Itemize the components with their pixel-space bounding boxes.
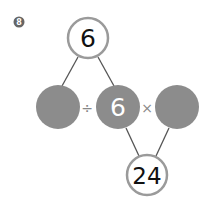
bottom-value: 24 [132, 163, 161, 189]
connector-top-middle [98, 57, 114, 86]
connector-top-left [62, 57, 78, 86]
divide-operator: ÷ [81, 100, 93, 116]
middle-circle: 6 [96, 85, 140, 129]
question-number-badge: 8 [14, 17, 25, 28]
top-value: 6 [80, 24, 96, 53]
number-diagram: 8 6 ÷ 6 × 24 [0, 0, 210, 210]
connector-middle-bottom [126, 128, 139, 156]
middle-value: 6 [110, 93, 126, 122]
right-blank-circle[interactable] [155, 85, 199, 129]
question-number: 8 [16, 18, 22, 27]
times-operator: × [141, 100, 153, 116]
bottom-circle: 24 [127, 155, 167, 195]
top-circle: 6 [68, 18, 108, 58]
connector-right-bottom [156, 128, 169, 156]
left-blank-circle[interactable] [36, 85, 80, 129]
